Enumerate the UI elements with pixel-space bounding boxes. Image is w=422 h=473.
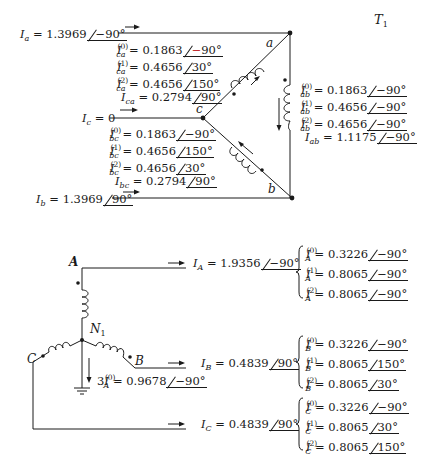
current-IC0: I(0)C = 0.3226−90° [306, 397, 409, 418]
subscript: C [305, 427, 311, 436]
polarity-dot-C [41, 354, 45, 358]
winding-B-wire [82, 340, 186, 368]
equals: = [215, 356, 225, 370]
arrowhead-Ia [134, 25, 140, 30]
equals: = [138, 90, 148, 104]
magnitude: 1.9356 [220, 256, 260, 270]
node-N1-label: N1 [90, 322, 106, 338]
polarity-dot-ab [283, 78, 287, 82]
current-IA: IA = 1.9356−90° [193, 257, 301, 274]
subscript: C [305, 447, 311, 456]
coil-A-icon [82, 290, 88, 318]
equals: = [315, 287, 325, 301]
angle: 90° [103, 193, 133, 206]
angle: 150° [368, 358, 406, 371]
arrowhead-IA [179, 261, 185, 266]
current-IA2: I(2)A = 0.8065−90° [306, 284, 408, 305]
magnitude: 1.1175 [336, 130, 376, 144]
equals: = [315, 377, 325, 391]
magnitude: 0.3226 [328, 400, 368, 414]
arrowhead-Ic [132, 108, 138, 113]
subscript: B [305, 364, 311, 373]
subscript: A [104, 381, 110, 390]
magnitude: 0.1863 [142, 43, 182, 57]
magnitude: 0.8065 [328, 377, 368, 391]
equals: = [315, 420, 325, 434]
equals: = [95, 111, 105, 125]
equals: = [129, 60, 139, 74]
magnitude: 0.8065 [328, 267, 368, 281]
angle-sign-highlight: − [192, 43, 202, 57]
angle: −90° [368, 288, 408, 301]
magnitude: 0.4656 [327, 117, 367, 131]
arrowhead-ab [277, 125, 282, 131]
subscript: b [41, 199, 46, 208]
current-Iab: Iab = 1.1175−90° [305, 131, 417, 148]
equals: = [315, 247, 325, 261]
current-Ica: Ica = 0.279490° [121, 91, 222, 108]
title-subscript: 1 [383, 20, 388, 29]
equals: = [122, 161, 132, 175]
equals: = [207, 256, 217, 270]
angle: 30° [183, 61, 213, 74]
equals: = [122, 127, 132, 141]
node-c-dot [201, 116, 206, 121]
subscript: B [305, 384, 311, 393]
angle: 90° [269, 418, 299, 431]
magnitude: 0.4656 [136, 144, 176, 158]
equals: = [314, 83, 324, 97]
angle: 150° [369, 441, 407, 454]
current-IB0: I(0)B = 0.3226−90° [306, 334, 408, 355]
magnitude: 0.4656 [136, 161, 176, 175]
angle: −90° [368, 248, 408, 261]
equals: = [315, 440, 325, 454]
angle: 30° [369, 421, 399, 434]
current-Ib: Ib = 1.396990° [36, 193, 133, 210]
polarity-dot-B [128, 355, 132, 359]
angle: −90° [176, 128, 216, 141]
current-IB2: I(2)B = 0.806530° [306, 374, 399, 395]
magnitude: 0.2794 [152, 90, 192, 104]
node-a-label: a [266, 36, 273, 50]
angle: 150° [176, 145, 214, 158]
angle: −90° [166, 375, 206, 388]
magnitude: 0.9678 [126, 374, 166, 388]
node-b-label: b [268, 182, 276, 196]
equals: = [33, 27, 43, 41]
equals: = [314, 100, 324, 114]
current-IB1: I(1)B = 0.8065150° [306, 354, 406, 375]
magnitude: 0.8065 [328, 420, 368, 434]
magnitude: 0.1863 [327, 83, 367, 97]
magnitude: 0.8065 [328, 287, 368, 301]
polarity-dot-bc [260, 168, 264, 172]
equals: = [133, 174, 143, 188]
magnitude: 0.4656 [142, 77, 182, 91]
magnitude: 0.3226 [328, 247, 368, 261]
title-symbol: T [374, 12, 383, 27]
angle: −90° [369, 401, 409, 414]
angle: −90° [367, 101, 407, 114]
current-ground-3IA0: 3I(0)A = 0.9678−90° [97, 371, 207, 392]
angle: −90° [183, 44, 223, 57]
arrowhead-IB [179, 361, 185, 366]
equals: = [314, 117, 324, 131]
subscript: c [87, 118, 91, 127]
subscript: A [305, 254, 311, 263]
subscript: A [198, 263, 204, 272]
neutral-symbol: N [90, 322, 101, 336]
equals: = [315, 357, 325, 371]
angle: −90° [367, 84, 407, 97]
magnitude: 0.3226 [328, 337, 368, 351]
magnitude: 0.8065 [328, 440, 368, 454]
equals: = [129, 43, 139, 57]
equals: = [215, 417, 225, 431]
polarity-dot-ca [232, 92, 236, 96]
equals: = [323, 130, 333, 144]
angle-value: 90° [201, 43, 221, 57]
magnitude: 0.1863 [136, 127, 176, 141]
magnitude: 0.4839 [228, 356, 268, 370]
subscript: ca [126, 97, 135, 106]
angle: −90° [261, 257, 301, 270]
current-IC1: I(1)C = 0.806530° [306, 417, 399, 438]
angle: 90° [192, 91, 222, 104]
